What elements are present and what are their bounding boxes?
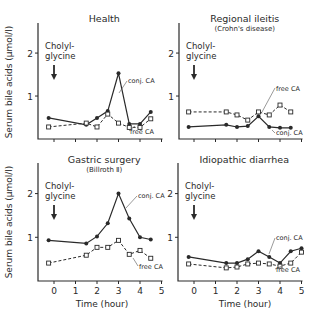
x-tick-label: 0 — [191, 286, 197, 296]
panel-health: 12HealthCholyl-glycineconj. CAfree CA — [27, 13, 162, 142]
free-ca-point — [235, 265, 239, 269]
bile-acid-figure: Serum bile acids (µmol/l) Serum bile aci… — [0, 0, 321, 323]
conj-ca-point — [257, 114, 261, 118]
y-axis-label-top: Serum bile acids (µmol/l) — [4, 26, 14, 139]
free-ca-point — [257, 261, 261, 265]
panel-title: Gastric surgery — [68, 154, 141, 165]
x-tick-label: 0 — [51, 286, 57, 296]
x-tick-label: 4 — [277, 286, 283, 296]
conj-ca-point — [149, 110, 153, 114]
free-ca-line — [49, 240, 151, 263]
y-tick-label: 2 — [27, 49, 33, 59]
free-ca-line — [189, 105, 291, 120]
conj-ca-point — [300, 246, 304, 250]
conj-ca-point — [47, 116, 51, 120]
free-ca-point — [224, 266, 228, 270]
free-ca-point — [138, 248, 142, 252]
x-tick-label: 1 — [73, 286, 79, 296]
cholylglycine-label: glycine — [45, 191, 75, 201]
free-ca-point — [149, 256, 153, 260]
conj-ca-point — [246, 257, 250, 261]
conj-ca-point — [267, 255, 271, 259]
conj-ca-annotation: conj. CA — [276, 234, 303, 242]
x-tick-label: 2 — [94, 286, 100, 296]
free-ca-point — [278, 103, 282, 107]
cholylglycine-label: Cholyl- — [45, 41, 74, 51]
annotation-leader — [133, 258, 138, 266]
y-tick-label: 1 — [27, 233, 33, 243]
conj-ca-point — [117, 71, 121, 75]
conj-ca-point — [246, 124, 250, 128]
x-tick-label: 1 — [213, 286, 219, 296]
conj-ca-point — [187, 125, 191, 129]
free-ca-point — [95, 245, 99, 249]
x-tick-label: 5 — [299, 286, 305, 296]
free-ca-point — [289, 261, 293, 265]
panel-title: Health — [89, 13, 120, 24]
free-ca-point — [267, 262, 271, 266]
x-tick-label: 3 — [116, 286, 122, 296]
conj-ca-point — [84, 241, 88, 245]
panel-subtitle: (Crohn's disease) — [214, 25, 275, 33]
y-axis-label-bottom: Serum bile acids (µmol/l) — [4, 166, 14, 279]
conj-ca-annotation: conj. CA — [276, 129, 303, 137]
conj-ca-point — [235, 125, 239, 129]
cholylglycine-label: glycine — [186, 51, 216, 61]
cholylglycine-label: glycine — [185, 191, 215, 201]
x-tick-label: 5 — [159, 286, 165, 296]
down-arrow-icon — [51, 214, 57, 220]
free-ca-point — [224, 110, 228, 114]
conj-ca-point — [138, 235, 142, 239]
free-ca-point — [106, 245, 110, 249]
y-tick-label: 1 — [167, 233, 173, 243]
cholylglycine-label: Cholyl- — [186, 41, 215, 51]
free-ca-annotation: free CA — [276, 85, 300, 93]
conj-ca-point — [95, 234, 99, 238]
conj-ca-point — [267, 125, 271, 129]
y-tick-label: 1 — [27, 92, 33, 102]
conj-ca-point — [224, 123, 228, 127]
free-ca-point — [117, 121, 121, 125]
cholylglycine-label: glycine — [45, 51, 75, 61]
panel-title: Idiopathic diarrhea — [200, 154, 289, 165]
y-tick-label: 2 — [27, 189, 33, 199]
conj-ca-point — [257, 249, 261, 253]
free-ca-point — [47, 261, 51, 265]
conj-ca-point — [47, 238, 51, 242]
x-axis-label-right: Time (hour) — [218, 299, 272, 309]
conj-ca-point — [149, 237, 153, 241]
free-ca-point — [127, 252, 131, 256]
free-ca-point — [47, 125, 51, 129]
panel-subtitle: (Billroth Ⅱ) — [86, 166, 122, 174]
conj-ca-annotation: conj. CA — [128, 77, 155, 85]
free-ca-point — [95, 125, 99, 129]
free-ca-point — [84, 253, 88, 257]
free-ca-point — [106, 112, 110, 116]
conj-ca-point — [289, 249, 293, 253]
conj-ca-point — [187, 255, 191, 259]
free-ca-annotation: free CA — [139, 263, 163, 271]
panel-title: Regional ileitis — [210, 13, 279, 24]
x-tick-label: 3 — [256, 286, 262, 296]
annotation-leader — [262, 88, 275, 112]
annotation-leader — [269, 238, 275, 254]
free-ca-point — [300, 250, 304, 254]
free-ca-point — [257, 110, 261, 114]
free-ca-point — [149, 117, 153, 121]
panel-gastric-surgery: 12012345Gastric surgery(Billroth Ⅱ)Choly… — [27, 154, 165, 296]
down-arrow-icon — [191, 214, 197, 220]
conj-ca-point — [224, 261, 228, 265]
conj-ca-line — [189, 248, 302, 263]
free-ca-point — [117, 238, 121, 242]
down-arrow-icon — [191, 74, 197, 80]
down-arrow-icon — [51, 74, 57, 80]
panel-regional-ileitis: 12Regional ileitis(Crohn's disease)Choly… — [168, 13, 303, 142]
cholylglycine-label: Cholyl- — [185, 181, 214, 191]
free-ca-point — [289, 110, 293, 114]
free-ca-point — [84, 121, 88, 125]
free-ca-point — [267, 113, 271, 117]
conj-ca-point — [127, 217, 131, 221]
free-ca-point — [187, 110, 191, 114]
x-tick-label: 4 — [137, 286, 143, 296]
annotation-leader — [272, 130, 275, 133]
